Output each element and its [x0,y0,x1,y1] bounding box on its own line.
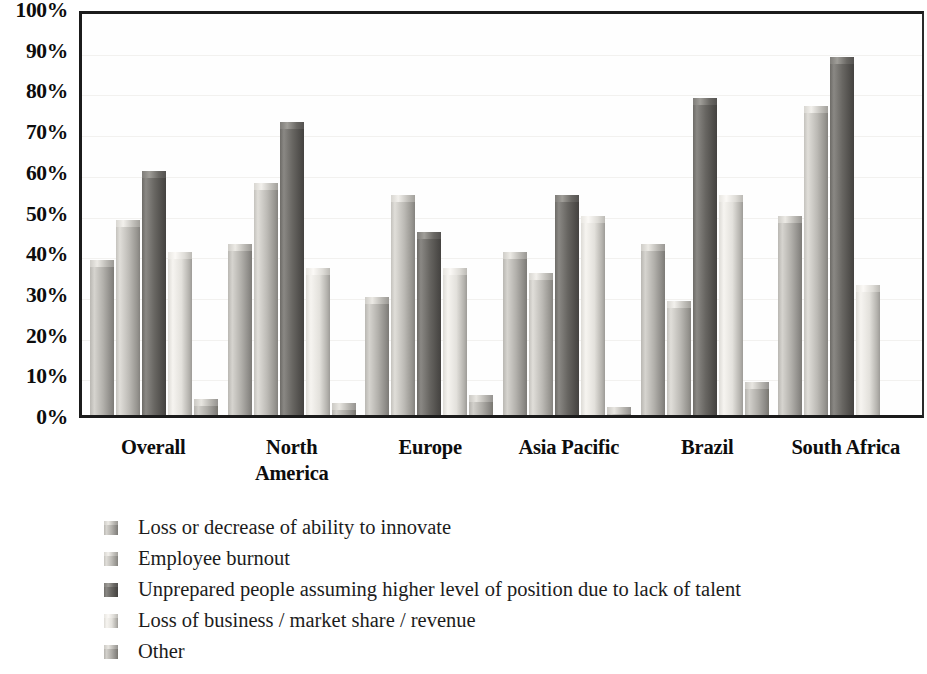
y-axis: 0%10%20%30%40%50%60%70%80%90%100% [0,6,76,418]
legend-swatch-cap [104,521,118,525]
bar-cap [90,260,114,267]
legend-swatch-cap [104,645,118,649]
bar [667,301,691,415]
plot-region: 0%10%20%30%40%50%60%70%80%90%100% [0,6,927,430]
bars-layer [82,14,922,415]
y-axis-tick-label: 100% [15,0,68,22]
legend-item-label: Other [138,641,185,662]
bar-cap [391,195,415,202]
bar-cap [667,301,691,308]
bar [142,171,166,415]
legend-item: Loss of business / market share / revenu… [104,605,914,636]
legend-swatch-cap [104,614,118,618]
bar-cap [194,399,218,406]
bar [719,195,743,415]
bar-cap [745,382,769,389]
bar-cap [228,244,252,251]
bar [168,252,192,415]
bar [555,195,579,415]
bar [116,220,140,415]
legend-item: Other [104,636,914,667]
bar-cap [116,220,140,227]
legend-item: Employee burnout [104,543,914,574]
bar-cap [830,57,854,64]
bar [228,244,252,415]
bar [391,195,415,415]
bar-cap [332,403,356,410]
bar [90,260,114,415]
bar-cap [469,395,493,402]
x-axis-tick-label: Europe [364,434,503,498]
x-axis: OverallNorthAmericaEuropeAsia PacificBra… [79,434,924,498]
bar-cap [254,183,278,190]
bar [804,106,828,415]
legend-swatch-icon [104,583,118,597]
bar-cap [280,122,304,129]
bar-cap [443,268,467,275]
x-axis-tick-label: Brazil [641,434,780,498]
chart-legend: Loss or decrease of ability to innovateE… [104,512,914,667]
legend-swatch-icon [104,614,118,628]
legend-item: Loss or decrease of ability to innovate [104,512,914,543]
bar-cap [168,252,192,259]
legend-item-label: Unprepared people assuming higher level … [138,579,741,600]
bar-cap [555,195,579,202]
bar [581,216,605,415]
legend-item-label: Loss of business / market share / revenu… [138,610,476,631]
bar [856,285,880,415]
bar [745,382,769,415]
legend-item-label: Loss or decrease of ability to innovate [138,517,451,538]
bar [693,98,717,415]
bar-group [228,14,366,415]
legend-swatch-icon [104,521,118,535]
bar [194,399,218,415]
bar-cap [693,98,717,105]
y-axis-tick-label: 30% [26,285,68,307]
bar-cap [306,268,330,275]
y-axis-tick-label: 20% [26,326,68,348]
bar-cap [365,297,389,304]
bar [503,252,527,415]
bar-cap [778,216,802,223]
bar [254,183,278,415]
bar [607,407,631,415]
bar-cap [529,273,553,280]
bar [830,57,854,415]
legend-swatch-cap [104,552,118,556]
bar [306,268,330,415]
legend-swatch-icon [104,645,118,659]
legend-swatch-icon [104,552,118,566]
bar [778,216,802,415]
x-axis-tick-label: Asia Pacific [503,434,642,498]
bar-group [503,14,641,415]
y-axis-tick-label: 90% [26,41,68,63]
bar [365,297,389,415]
bar-cap [804,106,828,113]
bar [443,268,467,415]
x-axis-tick-label: Overall [87,434,226,498]
y-axis-tick-label: 10% [26,367,68,389]
legend-swatch-cap [104,583,118,587]
y-axis-tick-label: 70% [26,122,68,144]
y-axis-tick-label: 0% [36,407,68,429]
plot-frame [79,11,924,418]
bar-chart-figure: 0%10%20%30%40%50%60%70%80%90%100% Overal… [0,0,927,674]
bar-group [641,14,779,415]
legend-item-label: Employee burnout [138,548,290,569]
bar [332,403,356,415]
bar [641,244,665,415]
bar [529,273,553,415]
bar-group [778,14,916,415]
y-axis-tick-label: 80% [26,82,68,104]
bar [417,232,441,415]
bar-cap [503,252,527,259]
bar-cap [719,195,743,202]
bar-cap [417,232,441,239]
legend-item: Unprepared people assuming higher level … [104,574,914,605]
bar-group [90,14,228,415]
bar [280,122,304,415]
y-axis-tick-label: 40% [26,244,68,266]
bar-group [365,14,503,415]
bar [469,395,493,415]
x-axis-tick-label: South Africa [780,434,919,498]
